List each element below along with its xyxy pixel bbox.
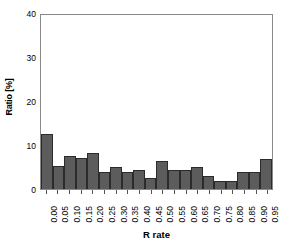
bar — [237, 172, 249, 189]
y-axis-tick-label: 0 — [14, 186, 36, 195]
x-axis-tick-labels: 0.000.050.100.150.200.250.300.350.400.45… — [40, 194, 273, 228]
y-axis-tick-label: 10 — [14, 142, 36, 151]
bar — [191, 167, 203, 189]
bar — [249, 172, 261, 189]
figure-caption-cutoff — [30, 247, 254, 250]
histogram-figure: Ratio [%] 010203040 0.000.050.100.150.20… — [0, 0, 284, 252]
bar — [76, 158, 88, 189]
bar — [87, 153, 99, 189]
bar — [64, 156, 76, 189]
bar — [145, 178, 157, 189]
y-axis-tick-label: 30 — [14, 54, 36, 63]
x-axis-title: R rate — [40, 229, 273, 240]
bar — [203, 176, 215, 189]
bar — [214, 181, 226, 189]
bar — [110, 167, 122, 189]
bar-series — [41, 15, 272, 189]
bar — [99, 172, 111, 189]
bar — [53, 166, 65, 189]
bar — [122, 172, 134, 189]
y-axis-tick-labels: 010203040 — [12, 0, 36, 252]
y-axis-tick-label: 40 — [14, 10, 36, 19]
bar — [168, 170, 180, 189]
bar — [180, 170, 192, 189]
bar — [133, 170, 145, 189]
y-axis-tick-label: 20 — [14, 98, 36, 107]
bar — [226, 181, 238, 189]
bar — [41, 134, 53, 189]
bar — [156, 161, 168, 189]
plot-area — [40, 14, 273, 190]
bar — [260, 159, 272, 189]
